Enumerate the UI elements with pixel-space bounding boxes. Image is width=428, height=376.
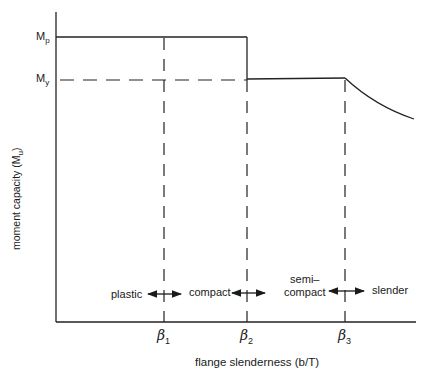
- my-label: My: [36, 72, 49, 87]
- mp-main: M: [36, 30, 45, 42]
- beta1-symbol: β: [157, 327, 165, 343]
- region-compact-label: compact: [189, 287, 231, 298]
- region-semicompact-line1: semi–: [284, 274, 326, 285]
- y-axis-label: moment capacity (Mu): [10, 148, 25, 250]
- beta2-symbol: β: [240, 327, 248, 343]
- beta3-label: β3: [338, 327, 351, 346]
- beta2-sub: 2: [248, 336, 253, 346]
- region-plastic-label: plastic: [111, 289, 142, 300]
- beta3-sub: 3: [346, 336, 351, 346]
- x-axis-label: flange slenderness (b/T): [195, 357, 319, 369]
- my-plateau-line: [247, 78, 345, 79]
- beta3-symbol: β: [338, 327, 346, 343]
- mp-label: Mp: [36, 30, 50, 45]
- mp-sub: p: [45, 36, 49, 45]
- region-slender-label: slender: [372, 285, 408, 296]
- y-axis-label-sub: u: [16, 151, 25, 155]
- y-axis-label-end: ): [10, 148, 22, 152]
- region-semicompact-line2: compact: [284, 287, 326, 298]
- diagram-canvas: [0, 0, 428, 376]
- slender-curve: [345, 78, 414, 119]
- beta2-label: β2: [240, 327, 253, 346]
- y-axis-label-text: moment capacity (M: [10, 155, 22, 250]
- my-sub: y: [45, 78, 49, 87]
- region-semicompact-label: semi– compact: [284, 274, 326, 298]
- beta1-sub: 1: [165, 336, 170, 346]
- beta1-label: β1: [157, 327, 170, 346]
- my-main: M: [36, 72, 45, 84]
